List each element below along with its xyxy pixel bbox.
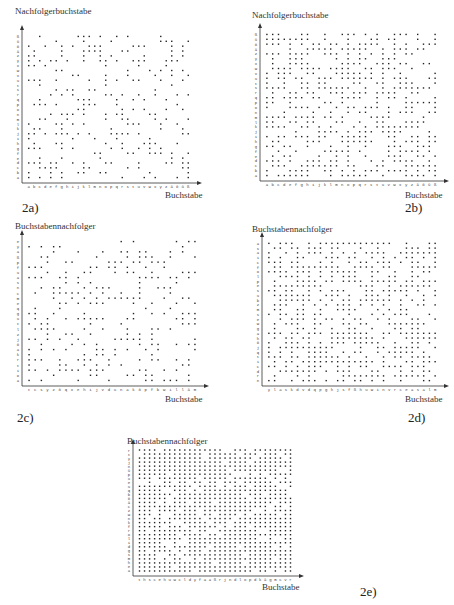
data-point — [214, 506, 215, 507]
data-point — [400, 252, 401, 253]
data-point — [406, 295, 407, 296]
data-point — [417, 304, 418, 305]
data-point — [289, 121, 290, 122]
x-tick-label: s — [417, 388, 420, 392]
data-point — [65, 318, 66, 319]
data-point — [308, 271, 309, 272]
data-point — [354, 276, 355, 277]
data-point — [169, 570, 170, 571]
data-point — [376, 121, 377, 122]
x-tick-label: l — [88, 185, 91, 189]
data-point — [360, 318, 361, 319]
data-point — [307, 53, 308, 54]
data-point — [434, 318, 435, 319]
data-point — [266, 43, 267, 44]
data-point — [285, 449, 286, 450]
data-point — [314, 281, 315, 282]
data-point — [47, 318, 48, 319]
data-point — [320, 271, 321, 272]
data-point — [371, 328, 372, 329]
data-point — [209, 558, 210, 559]
data-point — [342, 121, 343, 122]
data-point — [244, 526, 245, 527]
y-tick-label: ö — [128, 497, 131, 501]
data-point — [154, 538, 155, 539]
data-point — [61, 157, 62, 158]
data-point — [434, 141, 435, 142]
data-point — [239, 502, 240, 503]
data-point — [214, 566, 215, 567]
data-point — [229, 461, 230, 462]
data-point — [105, 162, 106, 163]
data-point — [105, 94, 106, 95]
data-point — [219, 469, 220, 470]
data-point — [297, 347, 298, 348]
data-point — [159, 461, 160, 462]
x-tick-label: x — [399, 183, 402, 187]
data-point — [39, 157, 40, 158]
x-tick-label: w — [174, 578, 177, 582]
data-point — [41, 267, 42, 268]
data-point — [250, 457, 251, 458]
data-point — [320, 323, 321, 324]
y-tick-label: c — [128, 505, 131, 509]
data-point — [405, 53, 406, 54]
data-point — [224, 554, 225, 555]
data-point — [133, 261, 134, 262]
data-point — [61, 133, 62, 134]
data-point — [219, 490, 220, 491]
data-point — [289, 97, 290, 98]
data-point — [177, 104, 178, 105]
data-point — [400, 82, 401, 83]
data-point — [270, 453, 271, 454]
data-point — [360, 375, 361, 376]
data-point — [138, 162, 139, 163]
data-point — [405, 160, 406, 161]
data-point — [353, 78, 354, 79]
x-tick-label: n — [382, 388, 385, 392]
data-point — [28, 133, 29, 134]
data-point — [314, 347, 315, 348]
data-point — [400, 299, 401, 300]
data-point — [239, 498, 240, 499]
data-point — [272, 39, 273, 40]
data-point — [290, 461, 291, 462]
data-point — [434, 304, 435, 305]
data-point — [429, 380, 430, 381]
y-tick-label: k — [128, 521, 131, 525]
data-point — [376, 116, 377, 117]
data-point — [56, 104, 57, 105]
data-point — [354, 252, 355, 253]
data-point — [224, 502, 225, 503]
data-point — [278, 116, 279, 117]
scatter-plot: ylaskdvdqpghjsfßhuwinvrceasalmnrdcitqjöh… — [250, 228, 452, 398]
x-tick-label: h — [66, 185, 69, 189]
data-point — [274, 380, 275, 381]
data-point — [266, 97, 267, 98]
data-point — [394, 92, 395, 93]
data-point — [280, 465, 281, 466]
data-point — [114, 272, 115, 273]
data-point — [388, 131, 389, 132]
data-point — [423, 366, 424, 367]
data-point — [177, 60, 178, 61]
data-point — [166, 118, 167, 119]
data-point — [105, 84, 106, 85]
y-tick-label: e — [17, 157, 20, 161]
data-point — [417, 337, 418, 338]
data-point — [366, 375, 367, 376]
data-point — [394, 131, 395, 132]
data-point — [209, 465, 210, 466]
data-point — [343, 309, 344, 310]
data-point — [324, 48, 325, 49]
data-point — [318, 87, 319, 88]
data-point — [159, 465, 160, 466]
data-point — [234, 526, 235, 527]
data-point — [406, 361, 407, 362]
data-point — [371, 361, 372, 362]
data-point — [255, 522, 256, 523]
data-point — [260, 469, 261, 470]
data-point — [171, 41, 172, 42]
data-point — [348, 262, 349, 263]
data-point — [90, 292, 91, 293]
